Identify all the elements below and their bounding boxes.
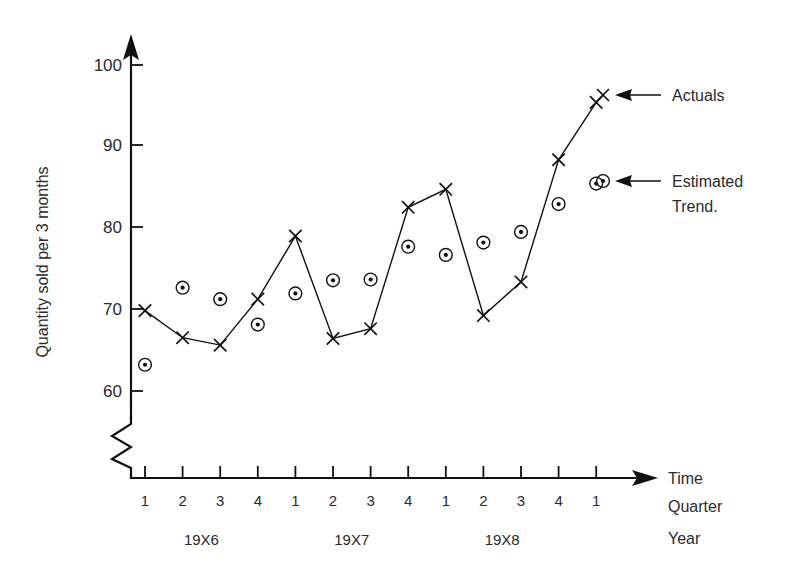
y-tick-label-3: 70 <box>103 300 122 319</box>
y-axis <box>112 34 139 478</box>
trend-point-11 <box>552 198 565 211</box>
x-tick-label-9: 2 <box>479 492 487 509</box>
trend-point-3 <box>251 318 264 331</box>
actuals-polyline <box>145 102 596 345</box>
trend-point-2 <box>214 293 227 306</box>
year-label-19X8: 19X8 <box>485 531 520 548</box>
x-axis-year-labels: 19X619X719X8 <box>184 531 520 548</box>
trend-point-1 <box>176 281 189 294</box>
x-tick-label-2: 3 <box>216 492 224 509</box>
legend-item-estimated-trend: Estimated Trend. <box>597 173 744 215</box>
x-tick-label-8: 1 <box>442 492 450 509</box>
y-tick-label-0: 100 <box>94 56 122 75</box>
axis-corner-label-quarter: Quarter <box>668 498 723 515</box>
actuals-point-10 <box>515 276 527 288</box>
legend-x-marker <box>597 89 609 101</box>
actuals-point-2 <box>214 339 226 351</box>
x-tick-label-7: 4 <box>404 492 412 509</box>
legend-label-estimated: Estimated <box>672 173 743 190</box>
trend-point-9 <box>477 236 490 249</box>
y-axis-ticks <box>131 65 143 391</box>
actuals-point-11 <box>552 154 564 166</box>
y-tick-label-1: 90 <box>103 136 122 155</box>
legend-item-actuals: Actuals <box>597 87 724 104</box>
year-label-19X7: 19X7 <box>334 531 369 548</box>
y-axis-tick-labels: 100 90 80 70 60 <box>94 56 122 401</box>
legend-label-trend: Trend. <box>672 198 718 215</box>
actuals-point-9 <box>477 309 489 321</box>
actuals-point-0 <box>139 304 151 316</box>
y-tick-label-4: 60 <box>103 382 122 401</box>
x-tick-label-11: 4 <box>554 492 562 509</box>
legend-arrowhead-trend <box>615 175 632 187</box>
trend-point-4 <box>289 287 302 300</box>
trend-point-8 <box>439 248 452 261</box>
chart-figure: 100 90 80 70 60 Quantity sold per 3 mont… <box>0 0 787 586</box>
axis-corner-label-time: Time <box>668 470 703 487</box>
x-tick-label-6: 3 <box>366 492 374 509</box>
trend-point-0 <box>139 358 152 371</box>
x-axis-ticks <box>145 466 596 478</box>
actuals-point-5 <box>327 332 339 344</box>
actuals-point-7 <box>402 201 414 213</box>
actuals-point-3 <box>252 293 264 305</box>
axis-corner-label-year: Year <box>668 530 701 547</box>
y-axis-break-zigzag <box>112 418 131 478</box>
series-actuals-markers <box>139 96 603 351</box>
trend-point-7 <box>402 240 415 253</box>
series-actuals-line <box>145 102 596 345</box>
x-tick-label-1: 2 <box>178 492 186 509</box>
x-axis-tick-labels: 1234123412341 <box>141 492 601 509</box>
legend-arrowhead-actuals <box>615 89 632 101</box>
x-tick-label-0: 1 <box>141 492 149 509</box>
trend-point-6 <box>364 273 377 286</box>
chart-canvas: 100 90 80 70 60 Quantity sold per 3 mont… <box>0 0 787 586</box>
actuals-point-6 <box>364 322 376 334</box>
trend-point-5 <box>327 274 340 287</box>
actuals-point-1 <box>176 332 188 344</box>
x-tick-label-3: 4 <box>254 492 262 509</box>
year-label-19X6: 19X6 <box>184 531 219 548</box>
x-tick-label-4: 1 <box>291 492 299 509</box>
y-tick-label-2: 80 <box>103 218 122 237</box>
y-axis-title: Quantity sold per 3 months <box>34 166 51 357</box>
legend-label-actuals: Actuals <box>672 87 724 104</box>
x-tick-label-12: 1 <box>592 492 600 509</box>
x-tick-label-10: 3 <box>517 492 525 509</box>
x-axis <box>131 470 658 486</box>
x-tick-label-5: 2 <box>329 492 337 509</box>
actuals-point-8 <box>440 183 452 195</box>
actuals-point-4 <box>289 230 301 242</box>
trend-point-10 <box>515 226 528 239</box>
